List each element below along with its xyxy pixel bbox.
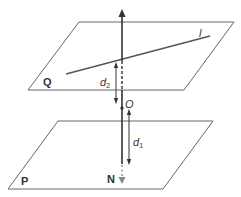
d2-label: d2 [100, 76, 110, 89]
d2-label-sub: 2 [106, 82, 110, 89]
plane-q-label: Q [43, 76, 52, 88]
d1-label: d1 [133, 136, 143, 149]
d1-label-sub: 1 [139, 142, 143, 149]
plane-q [28, 22, 234, 90]
line-l-label: l [199, 27, 202, 39]
point-n-label: N [107, 173, 115, 185]
d2-arrow-down-icon [114, 98, 118, 104]
plane-p-label: P [21, 175, 28, 187]
line-l [66, 36, 210, 74]
arrow-down-n-icon [119, 177, 126, 184]
point-o [120, 106, 123, 109]
diagram-canvas: Q P l O N d2 d1 [0, 0, 241, 197]
d2-arrow-up-icon [114, 62, 118, 68]
arrow-up-icon [119, 9, 126, 17]
d1-arrow-down-icon [127, 159, 131, 165]
point-o-label: O [125, 98, 134, 110]
